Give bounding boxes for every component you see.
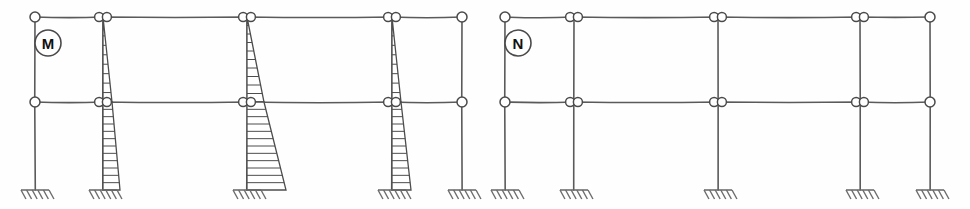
node-top-right-column-4-interior [391,13,400,22]
node-floor-right-column-3-interior-center [246,98,255,107]
support-hatch [100,190,105,199]
node-top-right-column-3-interior-center [717,13,726,22]
support-hatch [566,190,571,199]
support-hatch [239,190,244,199]
support-hatch [378,190,383,199]
panel-m-label-text: M [42,35,55,52]
fixed-support-2 [89,190,122,199]
support-hatch [508,190,513,199]
support-hatch [89,190,94,199]
node-floor-right-column-2-interior [573,98,582,107]
panel-n: N [491,12,949,199]
fixed-support-2 [560,190,593,199]
support-hatch [106,190,111,199]
support-hatch [721,190,726,199]
node-top-column-5-exterior-right [925,12,935,22]
support-hatch [916,190,921,199]
structural-frame-diagram: MN [0,0,970,209]
panel-n-label-text: N [513,35,524,52]
support-hatch [732,190,737,199]
node-top-right-column-4-interior [859,13,868,22]
panels-root: MN [21,12,949,199]
support-hatch [95,190,100,199]
support-hatch [38,190,43,199]
node-top-column-1-exterior-left [500,12,510,22]
support-hatch [32,190,37,199]
support-hatch [863,190,868,199]
support-hatch [927,190,932,199]
support-hatch [577,190,582,199]
support-hatch [502,190,507,199]
node-top-column-5-exterior-right [457,12,467,22]
support-hatch [389,190,394,199]
support-hatch [852,190,857,199]
node-floor-column-5-exterior-right [925,97,935,107]
support-hatch [244,190,249,199]
moment-column-2-upper-outline [103,17,112,102]
fixed-support-5 [448,190,481,199]
node-top-column-1-exterior-left [30,12,40,22]
support-hatch [470,190,475,199]
support-hatch [454,190,459,199]
support-hatch [255,190,260,199]
support-hatch [857,190,862,199]
fixed-support-1 [21,190,54,199]
support-hatch [384,190,389,199]
support-hatch [560,190,565,199]
fixed-support-4 [846,190,879,199]
support-hatch [261,190,266,199]
support-hatch [513,190,518,199]
fixed-support-5 [916,190,949,199]
node-top-right-column-2-interior [573,13,582,22]
support-hatch [944,190,949,199]
support-hatch [459,190,464,199]
support-hatch [491,190,496,199]
support-hatch [582,190,587,199]
support-hatch [49,190,54,199]
support-hatch [476,190,481,199]
fixed-support-4 [378,190,411,199]
support-hatch [395,190,400,199]
fixed-support-1 [491,190,524,199]
node-top-right-column-3-interior-center [246,13,255,22]
support-hatch [868,190,873,199]
node-floor-right-column-4-interior [859,98,868,107]
support-hatch [846,190,851,199]
support-hatch [588,190,593,199]
support-hatch [406,190,411,199]
support-hatch [400,190,405,199]
node-top-right-column-2-interior [102,13,111,22]
support-hatch [497,190,502,199]
support-hatch [27,190,32,199]
support-hatch [874,190,879,199]
support-hatch [21,190,26,199]
support-hatch [465,190,470,199]
panel-m: M [21,12,481,199]
node-floor-column-1-exterior-left [500,97,510,107]
support-hatch [250,190,255,199]
fixed-support-3 [233,190,266,199]
support-hatch [922,190,927,199]
node-floor-right-column-4-interior [391,98,400,107]
support-hatch [448,190,453,199]
support-hatch [704,190,709,199]
support-hatch [233,190,238,199]
moment-column-4-upper-outline [392,17,401,102]
node-floor-column-1-exterior-left [30,97,40,107]
support-hatch [726,190,731,199]
support-hatch [43,190,48,199]
support-hatch [710,190,715,199]
figure-canvas: MN [0,0,970,209]
support-hatch [571,190,576,199]
support-hatch [519,190,524,199]
node-floor-right-column-3-interior-center [717,98,726,107]
support-hatch [933,190,938,199]
support-hatch [117,190,122,199]
support-hatch [715,190,720,199]
fixed-support-3 [704,190,737,199]
support-hatch [111,190,116,199]
node-floor-column-5-exterior-right [457,97,467,107]
support-hatch [938,190,943,199]
node-floor-right-column-2-interior [102,98,111,107]
